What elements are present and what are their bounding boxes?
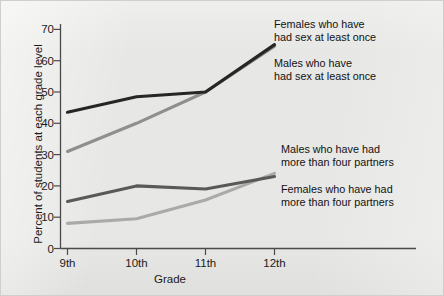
x-tick-label-9th: 9th [60, 258, 76, 270]
x-tick-label-11th: 11th [195, 258, 217, 270]
series-annotation-males-sex: Males who have had sex at least once [274, 57, 376, 82]
x-tick-label-10th: 10th [125, 258, 147, 270]
chart-figure: 0 10 20 30 40 50 60 70 9th 10th 11th 12t… [0, 0, 444, 296]
series-annotation-males-four-partners: Males who have had more than four partne… [281, 143, 394, 168]
y-axis-title: Percent of students at each grade level [32, 44, 44, 244]
series-annotation-females-four-partners: Females who have had more than four part… [281, 183, 394, 208]
series-annotation-females-sex: Females who have had sex at least once [274, 18, 376, 43]
x-axis-title: Grade [0, 273, 340, 285]
x-tick-label-12th: 12th [263, 258, 285, 270]
